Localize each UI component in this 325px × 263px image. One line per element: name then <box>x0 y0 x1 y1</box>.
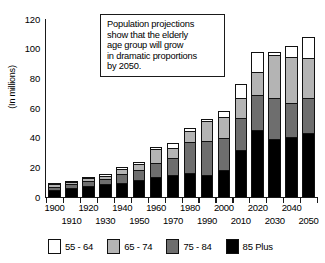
y-axis-tick-label: 100 <box>14 44 40 53</box>
bar-segment-65---74 <box>167 148 180 158</box>
bar-segment-65---74 <box>285 57 298 103</box>
x-axis-tick <box>317 197 318 203</box>
x-axis-tick-label: 1970 <box>156 216 190 226</box>
y-axis-tick-labels: 120100806040200 <box>14 0 40 263</box>
bar-segment-85-plus <box>268 139 281 197</box>
bar-segment-65---74 <box>268 55 281 98</box>
bar-segment-75---84 <box>116 174 129 183</box>
annotation-line: by 2050. <box>107 61 219 72</box>
legend-swatch <box>107 239 120 254</box>
bar-segment-75---84 <box>218 138 231 171</box>
bar-segment-85-plus <box>235 150 248 197</box>
x-axis-tick-label: 2050 <box>292 216 325 226</box>
stacked-bar-chart: (In millions) 120100806040200 1900191019… <box>0 0 325 263</box>
y-axis-tick-label: 40 <box>14 133 40 142</box>
bar-2010 <box>235 84 248 197</box>
bar-segment-55---64 <box>251 52 264 73</box>
bar-segment-85-plus <box>167 175 180 197</box>
bar-segment-65---74 <box>251 72 264 94</box>
x-axis-tick-label: 1960 <box>139 203 173 213</box>
bar-segment-85-plus <box>65 188 78 197</box>
x-axis-tick-label: 1950 <box>122 216 156 226</box>
bar-2000 <box>218 111 231 197</box>
bar-segment-65---74 <box>201 121 214 140</box>
bar-segment-75---84 <box>302 98 315 134</box>
y-axis-tick-label: 120 <box>14 15 40 24</box>
bar-segment-75---84 <box>201 141 214 175</box>
bar-segment-75---84 <box>184 142 197 173</box>
bar-segment-85-plus <box>99 184 112 197</box>
bar-segment-75---84 <box>150 163 163 177</box>
bar-segment-75---84 <box>251 95 264 131</box>
bar-1980 <box>184 128 197 197</box>
bar-2050 <box>302 37 315 197</box>
bar-segment-85-plus <box>133 180 146 197</box>
bar-1960 <box>150 147 163 197</box>
bar-segment-85-plus <box>116 183 129 197</box>
bar-1970 <box>167 143 180 197</box>
bar-1910 <box>65 181 78 197</box>
legend-label: 55 - 64 <box>65 241 93 252</box>
bar-segment-85-plus <box>82 186 95 197</box>
chart-legend: 55 - 6465 - 7475 - 8485 Plus <box>48 237 310 255</box>
bar-segment-85-plus <box>218 170 231 197</box>
bar-segment-65---74 <box>235 98 248 119</box>
legend-item-85-plus: 85 Plus <box>226 239 273 254</box>
bar-segment-85-plus <box>201 175 214 197</box>
x-axis-tick-label: 1900 <box>37 203 71 213</box>
bar-segment-55---64 <box>235 84 248 97</box>
x-axis-tick-label: 1980 <box>173 203 207 213</box>
bar-segment-65---74 <box>218 117 231 138</box>
bar-1920 <box>82 177 95 197</box>
annotation-line: show that the elderly <box>107 30 219 41</box>
bar-segment-85-plus <box>150 177 163 197</box>
bar-1930 <box>99 174 112 197</box>
bar-segment-85-plus <box>251 130 264 197</box>
bar-segment-85-plus <box>184 173 197 197</box>
x-axis-tick-label: 2010 <box>224 216 258 226</box>
x-axis-tick-label: 2000 <box>207 203 241 213</box>
bar-2030 <box>268 52 281 197</box>
legend-swatch <box>48 239 61 254</box>
bar-segment-75---84 <box>235 118 248 149</box>
bar-segment-75---84 <box>133 170 146 180</box>
legend-label: 75 - 84 <box>183 241 211 252</box>
bar-1950 <box>133 162 146 197</box>
x-axis-tick-label: 1990 <box>190 216 224 226</box>
x-axis-tick-label: 2020 <box>241 203 275 213</box>
bar-segment-75---84 <box>167 158 180 174</box>
bar-segment-65---74 <box>150 149 163 163</box>
bar-segment-65---74 <box>302 58 315 98</box>
x-axis-tick-label: 1930 <box>88 216 122 226</box>
annotation-line: in dramatic proportions <box>107 51 219 62</box>
bar-1940 <box>116 167 129 197</box>
annotation-line: age group will grow <box>107 40 219 51</box>
x-axis-tick-label: 1910 <box>54 216 88 226</box>
legend-swatch <box>166 239 179 254</box>
x-axis-tick-label: 2040 <box>275 203 309 213</box>
bar-1900 <box>48 183 61 197</box>
x-axis-tick-label: 1920 <box>71 203 105 213</box>
legend-label: 65 - 74 <box>124 241 152 252</box>
x-axis-tick-label: 1940 <box>105 203 139 213</box>
bar-segment-65---74 <box>133 164 146 171</box>
bar-segment-75---84 <box>285 103 298 137</box>
bar-segment-55---64 <box>302 37 315 58</box>
bar-segment-85-plus <box>48 190 61 197</box>
y-axis-tick-label: 80 <box>14 74 40 83</box>
bar-segment-85-plus <box>285 137 298 197</box>
bar-segment-85-plus <box>302 133 315 197</box>
bar-segment-65---74 <box>184 131 197 142</box>
y-axis-tick-label: 0 <box>14 193 40 202</box>
bar-1990 <box>201 119 214 197</box>
x-axis-tick-label: 2030 <box>258 216 292 226</box>
bar-2040 <box>285 46 298 197</box>
legend-item-75---84: 75 - 84 <box>166 239 211 254</box>
annotation-callout: Population projectionsshow that the elde… <box>100 14 225 77</box>
legend-item-65---74: 65 - 74 <box>107 239 152 254</box>
legend-label: 85 Plus <box>243 241 273 252</box>
bar-segment-55---64 <box>285 46 298 56</box>
bar-segment-75---84 <box>268 98 281 140</box>
y-axis-tick-label: 60 <box>14 104 40 113</box>
legend-item-55---64: 55 - 64 <box>48 239 93 254</box>
